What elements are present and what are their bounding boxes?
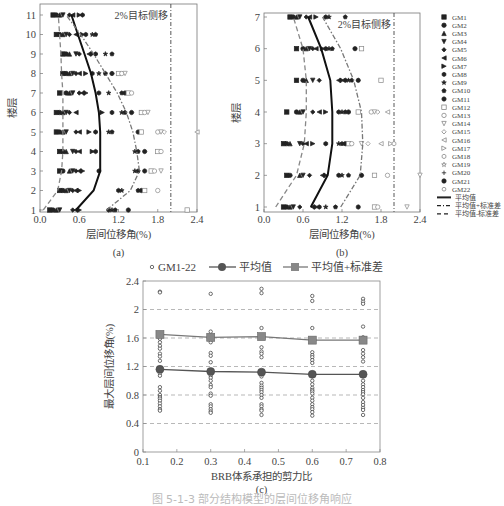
data-point	[209, 361, 212, 364]
data-point	[158, 347, 161, 350]
legend-item: GM22	[442, 186, 471, 194]
y-tick-label: 1.6	[126, 333, 139, 344]
legend-item: 平均值+标准差	[437, 201, 501, 210]
y-axis-label: 楼层	[6, 98, 18, 118]
y-tick-label: 2.4	[126, 276, 140, 287]
data-point	[361, 413, 364, 416]
mean-plus-std-marker	[308, 336, 316, 344]
data-point	[209, 354, 212, 357]
legend-item: 平均值-标准差	[437, 209, 499, 218]
x-tick-label: 0.0	[33, 214, 46, 225]
legend-label: GM5	[452, 46, 467, 54]
legend-label: GM9	[452, 79, 467, 87]
data-point	[311, 410, 314, 413]
target-drift-annotation: 2%目标侧移	[114, 9, 167, 21]
x-axis-label: 层间位移角(%)	[86, 228, 152, 241]
y-tick-label: 0.8	[126, 390, 139, 401]
data-point	[361, 325, 364, 328]
mean-plus-std-marker	[207, 333, 215, 341]
mean-plus-std-marker	[359, 336, 367, 344]
data-point	[209, 385, 212, 388]
legend-item: GM16	[442, 137, 471, 145]
data-point	[260, 356, 263, 359]
y-tick-label: 10	[26, 29, 37, 40]
x-tick-label: 1.2	[335, 214, 348, 225]
legend-label: GM10	[452, 87, 471, 95]
panel-label: (a)	[113, 247, 125, 259]
data-point	[311, 379, 314, 382]
data-point	[361, 352, 364, 355]
x-tick-label: 1.8	[374, 214, 387, 225]
legend-item: GM9	[442, 79, 468, 87]
legend-item: GM21	[442, 178, 471, 186]
legend-label: GM19	[452, 161, 471, 169]
legend-item: 平均值	[437, 193, 476, 202]
legend-item: GM12	[442, 104, 471, 112]
legend-item: GM14	[442, 120, 471, 128]
mean-plus-std-marker	[156, 330, 164, 338]
legend-item: GM1	[442, 14, 467, 22]
x-tick-label: 1.8	[151, 214, 164, 225]
data-point	[158, 374, 161, 377]
data-point	[260, 409, 263, 412]
legend-label: GM1	[452, 14, 467, 22]
legend-item: GM15	[442, 128, 471, 136]
legend-marker-circle	[150, 265, 153, 268]
data-point	[158, 359, 161, 362]
legend-item: GM8	[442, 71, 467, 79]
legend-item: GM20	[442, 169, 471, 177]
x-tick-label: 0.1	[136, 456, 149, 467]
legend-label: 平均值-标准差	[455, 209, 499, 218]
data-point	[209, 292, 212, 295]
legend-item: GM3	[442, 30, 467, 38]
y-tick-label: 8	[31, 68, 36, 79]
data-point	[209, 411, 212, 414]
legend-item: GM17	[442, 145, 471, 153]
legend-label: GM15	[452, 128, 471, 136]
data-point	[361, 356, 364, 359]
panel-label: (b)	[336, 247, 349, 259]
y-tick-label: 4	[255, 107, 261, 118]
x-tick-label: 2.4	[413, 214, 427, 225]
x-tick-label: 0.3	[204, 456, 217, 467]
y-tick-label: 11	[26, 10, 36, 21]
data-point	[311, 294, 314, 297]
y-axis-label: 楼层	[230, 103, 242, 123]
y-tick-label: 1	[255, 202, 260, 213]
data-point	[311, 399, 314, 402]
legend-label: 平均值+标准差	[311, 260, 383, 273]
figure: 0.00.61.21.82.41234567891011层间位移角(%)楼层(a…	[0, 0, 504, 506]
data-point	[260, 396, 263, 399]
y-tick-label: 1	[31, 205, 36, 216]
x-tick-label: 0.8	[373, 456, 386, 467]
legend-item: GM18	[442, 153, 471, 161]
figure-caption: 图 5-1-3 部分结构模型的层间位移角响应	[0, 490, 504, 506]
chart-panel-b: 0.00.61.21.82.41234567层间位移角(%)楼层(b)2%目标侧…	[230, 12, 427, 260]
data-point	[311, 414, 314, 417]
legend-marker-std	[291, 263, 299, 271]
legend-label: 平均值	[239, 261, 272, 273]
legend-item: GM6	[442, 55, 467, 63]
x-tick-label: 0.0	[257, 214, 270, 225]
y-tick-label: 6	[255, 43, 260, 54]
data-point	[361, 360, 364, 363]
data-point	[311, 361, 314, 364]
data-point	[361, 408, 364, 411]
mean-marker	[308, 370, 316, 378]
legend-label: GM11	[452, 96, 471, 104]
y-tick-label: 0.4	[126, 418, 140, 429]
y-tick-label: 7	[31, 88, 36, 99]
y-tick-label: 3	[31, 166, 36, 177]
y-tick-label: 6	[31, 107, 36, 118]
legend-label: GM20	[452, 169, 471, 177]
data-point	[158, 341, 161, 344]
legend-item: GM13	[442, 112, 471, 120]
legend-item: GM11	[442, 96, 471, 104]
legend-label: GM14	[452, 120, 471, 128]
legend-label: GM2	[452, 22, 467, 30]
x-tick-label: 2.4	[190, 214, 204, 225]
data-point	[158, 291, 161, 294]
y-tick-label: 2	[31, 185, 36, 196]
legend-item: GM4	[442, 38, 467, 46]
x-axis-label: 层间位移角(%)	[309, 228, 375, 241]
